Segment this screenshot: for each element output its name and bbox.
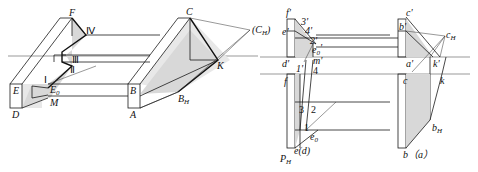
- label-K: K: [216, 60, 225, 71]
- label-D: D: [11, 109, 20, 120]
- axonometric-labels: F Ⅳ Ⅲ Ⅱ Ⅰ E E0 M D B A C (CH) K BH: [11, 6, 271, 120]
- label-c: c: [403, 75, 408, 86]
- label-1: 1: [304, 122, 309, 133]
- label-d-prime: d': [282, 58, 290, 69]
- label-CH: (CH): [252, 24, 271, 37]
- descriptive-geometry-figure: F Ⅳ Ⅲ Ⅱ Ⅰ E E0 M D B A C (CH) K BH: [0, 0, 478, 172]
- label-1-prime: 1': [296, 63, 304, 74]
- label-I: Ⅰ: [44, 74, 47, 85]
- label-2: 2: [311, 104, 316, 115]
- label-IV: Ⅳ: [86, 25, 96, 36]
- label-E: E: [12, 85, 19, 96]
- label-BH: BH: [178, 93, 190, 106]
- label-4: 4: [313, 65, 318, 76]
- label-k: k: [440, 75, 445, 86]
- label-cH: cH: [446, 29, 456, 42]
- label-F: F: [68, 7, 76, 18]
- label-e-prime: e': [282, 26, 289, 37]
- label-bH: bH: [432, 122, 443, 135]
- label-c-prime: c': [406, 7, 413, 18]
- label-3: 3: [299, 104, 304, 115]
- label-e-d: e(d): [294, 145, 311, 157]
- label-M: M: [49, 97, 59, 108]
- label-C: C: [186, 6, 193, 17]
- label-II: Ⅱ: [70, 64, 75, 75]
- label-e0: e0: [310, 131, 318, 144]
- label-PH: PH: [279, 153, 292, 166]
- label-a-prime: a': [406, 58, 414, 69]
- label-k-prime: k': [433, 58, 440, 69]
- label-A: A: [129, 109, 137, 120]
- label-b-prime: b': [399, 21, 407, 32]
- label-B: B: [130, 85, 136, 96]
- label-b-a: b（a）: [403, 149, 433, 160]
- label-f-prime: f': [286, 7, 292, 18]
